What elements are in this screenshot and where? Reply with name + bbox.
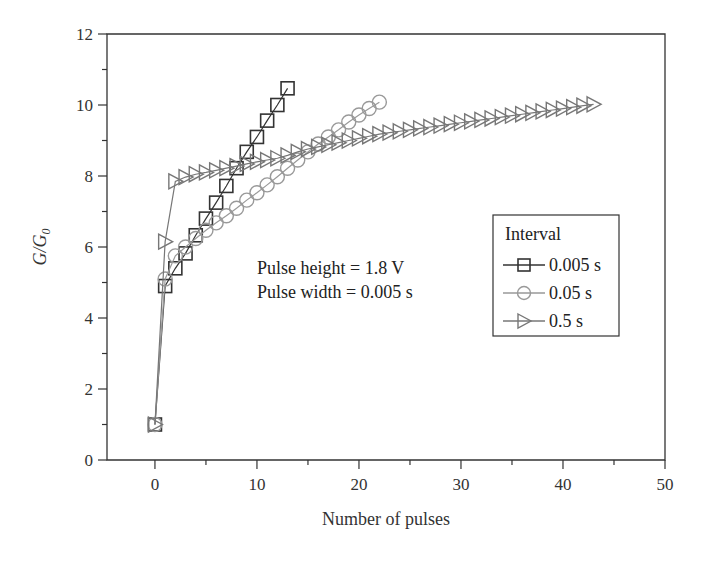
annotation: Pulse height = 1.8 V Pulse width = 0.005… bbox=[257, 258, 413, 302]
legend-title: Interval bbox=[505, 224, 561, 244]
annotation-pulse-width: Pulse width = 0.005 s bbox=[257, 282, 413, 302]
y-axis-title: G/G0 bbox=[30, 229, 53, 266]
y-tick-label: 2 bbox=[85, 380, 94, 399]
legend-label: 0.05 s bbox=[549, 283, 592, 303]
legend: Interval 0.005 s0.05 s0.5 s bbox=[493, 215, 619, 336]
x-tick-label: 30 bbox=[452, 475, 469, 494]
y-tick-label: 0 bbox=[85, 451, 94, 470]
x-tick-label: 0 bbox=[151, 475, 160, 494]
legend-label: 0.5 s bbox=[549, 311, 583, 331]
x-tick-label: 20 bbox=[350, 475, 367, 494]
x-axis-title: Number of pulses bbox=[322, 509, 450, 529]
y-axis-title-subscript: 0 bbox=[39, 229, 53, 235]
y-tick-label: 8 bbox=[85, 167, 94, 186]
y-tick-label: 10 bbox=[76, 96, 93, 115]
annotation-pulse-height: Pulse height = 1.8 V bbox=[257, 258, 404, 278]
series-0-005-s bbox=[148, 82, 294, 431]
x-tick-label: 40 bbox=[554, 475, 571, 494]
chart-canvas: 01020304050024681012 Pulse height = 1.8 … bbox=[0, 0, 705, 565]
y-tick-label: 12 bbox=[76, 25, 93, 44]
y-tick-label: 4 bbox=[85, 309, 94, 328]
x-tick-label: 50 bbox=[657, 475, 674, 494]
chart: 01020304050024681012 Pulse height = 1.8 … bbox=[0, 0, 705, 565]
y-axis-title-main: G/G bbox=[30, 235, 50, 266]
y-tick-label: 6 bbox=[85, 238, 94, 257]
x-tick-label: 10 bbox=[248, 475, 265, 494]
legend-label: 0.005 s bbox=[549, 255, 601, 275]
